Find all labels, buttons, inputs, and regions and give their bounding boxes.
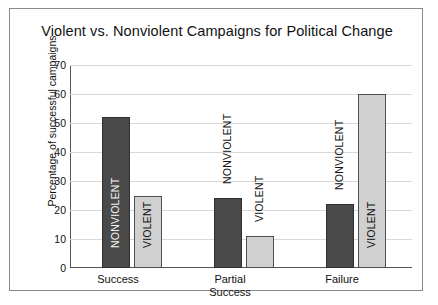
bar-nonviolent-partial-success[interactable] (214, 198, 242, 268)
y-tick-30: 30 (26, 175, 66, 187)
y-tick-0: 0 (26, 262, 66, 274)
category-label-partial-success-line2: Success (182, 286, 278, 299)
category-label-failure-line1: Failure (294, 273, 390, 286)
bar-nonviolent-failure[interactable] (326, 204, 354, 268)
y-tick-40: 40 (26, 146, 66, 158)
y-axis-ticks: 70 60 50 40 30 20 10 0 (24, 65, 66, 268)
bar-label-violent-success: VIOLENT (141, 202, 153, 248)
y-tick-60: 60 (26, 88, 66, 100)
bar-label-violent-failure: VIOLENT (365, 202, 377, 248)
category-label-partial-success: Partial Success (182, 273, 278, 298)
bar-label-nonviolent-partial-success: NONVIOLENT (221, 114, 233, 184)
y-tick-70: 70 (26, 59, 66, 71)
y-tick-10: 10 (26, 233, 66, 245)
bar-label-nonviolent-success: NONVIOLENT (109, 178, 121, 248)
bar-group-failure: NONVIOLENT VIOLENT (322, 65, 418, 268)
bar-label-nonviolent-failure: NONVIOLENT (333, 120, 345, 190)
bar-label-violent-partial-success: VIOLENT (253, 176, 265, 222)
category-label-success: Success (70, 273, 166, 286)
category-label-partial-success-line1: Partial (182, 273, 278, 286)
plot-area: NONVIOLENT VIOLENT NONVIOLENT VIOLENT NO… (70, 65, 412, 268)
chart-frame: Violent vs. Nonviolent Campaigns for Pol… (9, 8, 423, 291)
chart-title: Violent vs. Nonviolent Campaigns for Pol… (10, 23, 424, 39)
bar-group-partial-success: NONVIOLENT VIOLENT (210, 65, 306, 268)
category-label-success-line1: Success (70, 273, 166, 286)
y-tick-50: 50 (26, 117, 66, 129)
bar-violent-partial-success[interactable] (246, 236, 274, 268)
category-label-failure: Failure (294, 273, 390, 286)
bar-group-success: NONVIOLENT VIOLENT (98, 65, 194, 268)
y-tick-20: 20 (26, 204, 66, 216)
